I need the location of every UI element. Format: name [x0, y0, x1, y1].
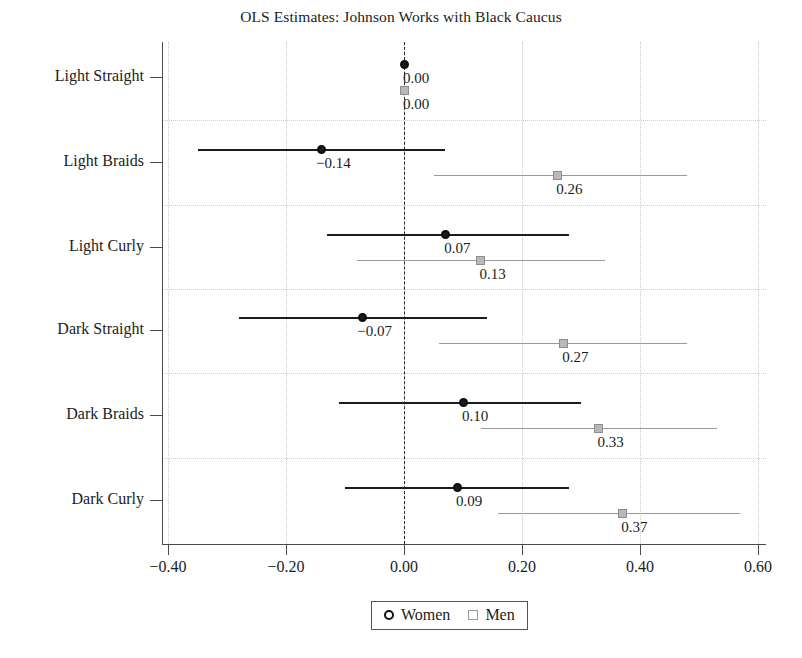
point-marker-women [453, 483, 462, 492]
horizontal-gridline [162, 458, 766, 459]
x-axis-tick [522, 544, 523, 555]
value-label: 0.33 [598, 434, 624, 451]
horizontal-gridline [162, 120, 766, 121]
horizontal-gridline [162, 373, 766, 374]
horizontal-gridline [162, 205, 766, 206]
x-axis-tick [404, 544, 405, 555]
value-label: −0.14 [316, 155, 351, 172]
x-axis-tick [286, 544, 287, 555]
legend-label: Men [485, 606, 514, 624]
horizontal-gridline [162, 289, 766, 290]
value-label: 0.13 [480, 266, 506, 283]
value-label: 0.09 [456, 493, 482, 510]
point-marker-women [459, 398, 468, 407]
y-axis-tick [150, 77, 162, 78]
zero-reference-line [404, 42, 405, 544]
value-label: 0.27 [562, 349, 588, 366]
vertical-gridline [522, 42, 523, 544]
x-axis-label: 0.00 [390, 558, 418, 576]
point-marker-men [400, 86, 409, 95]
value-label: 0.07 [444, 240, 470, 257]
point-marker-men [618, 509, 627, 518]
value-label: 0.00 [403, 96, 429, 113]
point-marker-women [400, 60, 409, 69]
x-axis-label: 0.60 [744, 558, 772, 576]
y-axis-tick [150, 330, 162, 331]
x-axis-label: −0.40 [149, 558, 186, 576]
y-axis-label-dark-braids: Dark Braids [0, 405, 144, 423]
vertical-gridline [286, 42, 287, 544]
point-marker-women [317, 145, 326, 154]
plot-area: 0.00−0.140.07−0.070.100.090.000.260.130.… [162, 42, 766, 544]
y-axis-label-light-braids: Light Braids [0, 152, 144, 170]
square-marker-icon [468, 610, 478, 620]
legend-entry-men: Men [468, 606, 514, 624]
x-axis-tick [758, 544, 759, 555]
value-label: −0.07 [357, 323, 392, 340]
y-axis-label-dark-straight: Dark Straight [0, 320, 144, 338]
value-label: 0.10 [462, 408, 488, 425]
x-axis-label: −0.20 [267, 558, 304, 576]
point-marker-men [476, 256, 485, 265]
x-axis-label: 0.40 [626, 558, 654, 576]
y-axis-label-dark-curly: Dark Curly [0, 490, 144, 508]
legend-entry-women: Women [384, 606, 450, 624]
x-axis-label: 0.20 [508, 558, 536, 576]
y-axis-tick [150, 247, 162, 248]
y-axis-tick [150, 500, 162, 501]
value-label: 0.26 [556, 181, 582, 198]
point-marker-men [553, 171, 562, 180]
y-axis-line [162, 42, 163, 544]
legend-label: Women [401, 606, 450, 624]
y-axis-tick [150, 415, 162, 416]
vertical-gridline [758, 42, 759, 544]
y-axis-label-light-curly: Light Curly [0, 237, 144, 255]
point-marker-men [559, 339, 568, 348]
y-axis-label-light-straight: Light Straight [0, 67, 144, 85]
y-axis-tick [150, 162, 162, 163]
vertical-gridline [168, 42, 169, 544]
chart-legend: WomenMen [371, 601, 528, 630]
point-marker-women [441, 230, 450, 239]
chart-title: OLS Estimates: Johnson Works with Black … [0, 8, 802, 26]
value-label: 0.00 [403, 70, 429, 87]
point-marker-men [594, 424, 603, 433]
circle-marker-icon [384, 610, 394, 620]
point-marker-women [358, 313, 367, 322]
x-axis-line [162, 544, 766, 545]
value-label: 0.37 [621, 519, 647, 536]
x-axis-tick [168, 544, 169, 555]
chart-root: OLS Estimates: Johnson Works with Black … [0, 0, 802, 658]
vertical-gridline [640, 42, 641, 544]
x-axis-tick [640, 544, 641, 555]
